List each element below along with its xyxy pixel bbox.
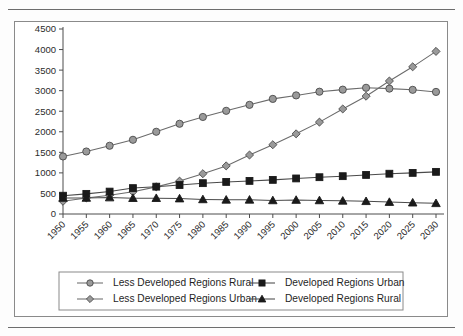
data-point [293,175,300,182]
y-tick-label: 4500 [35,23,56,34]
x-tick-label: 1980 [185,219,208,242]
data-point [269,176,276,183]
y-tick-label: 2000 [35,126,56,137]
data-point [409,169,416,176]
data-point [339,86,346,93]
legend-marker-square-icon [259,280,265,286]
series-0 [59,84,439,160]
data-point [83,148,90,155]
data-point [385,77,393,85]
data-point [386,170,393,177]
legend-label: Developed Regions Rural [285,293,401,304]
chart-series-group [59,47,440,206]
x-tick-label: 1970 [138,219,161,242]
y-tick-label: 1500 [35,147,56,158]
chart-legend: Less Developed Regions RuralDeveloped Re… [59,272,405,310]
data-point [292,130,300,138]
x-tick-label: 2020 [371,219,394,242]
series-3 [59,193,440,206]
data-point [386,85,393,92]
line-chart: 050010001500200025003000350040004500 195… [15,22,447,316]
data-point [269,141,277,149]
data-point [316,88,323,95]
x-tick-label: 1990 [231,219,254,242]
data-point [363,172,370,179]
legend-marker-circle-icon [87,280,93,286]
data-point [176,120,183,127]
page-root: 050010001500200025003000350040004500 195… [0,0,463,336]
y-tick-label: 4000 [35,44,56,55]
legend-label: Less Developed Regions Rural [113,277,253,288]
x-tick-label: 1965 [115,219,138,242]
y-axis: 050010001500200025003000350040004500 [35,23,63,219]
x-tick-label: 1950 [45,219,68,242]
data-point [199,113,206,120]
data-point [59,153,66,160]
x-tick-label: 1975 [161,219,184,242]
data-point [199,170,207,178]
data-point [339,105,347,113]
legend-label: Less Developed Regions Urban [113,293,257,304]
data-point [433,168,440,175]
chart-frame: 050010001500200025003000350040004500 195… [14,21,448,317]
data-point [409,63,417,71]
data-point [176,182,183,189]
data-point [339,173,346,180]
data-point [245,151,253,159]
data-point [432,88,439,95]
data-point [222,162,230,170]
data-point [432,47,440,55]
data-point [246,177,253,184]
y-tick-label: 0 [51,208,56,219]
x-tick-label: 1985 [208,219,231,242]
data-point [153,128,160,135]
data-point [315,118,323,126]
data-point [129,136,136,143]
data-point [153,183,160,190]
data-point [316,174,323,181]
data-point [409,86,416,93]
bottom-horizontal-rule [8,327,455,328]
x-tick-label: 2015 [348,219,371,242]
x-tick-label: 2010 [324,219,347,242]
data-point [130,185,137,192]
y-tick-label: 500 [40,188,56,199]
x-tick-label: 1995 [254,219,277,242]
x-tick-label: 2005 [301,219,324,242]
y-tick-label: 3000 [35,85,56,96]
y-tick-label: 1000 [35,167,56,178]
y-tick-label: 3500 [35,65,56,76]
y-tick-label: 2500 [35,106,56,117]
x-tick-label: 1955 [68,219,91,242]
data-point [199,180,206,187]
x-tick-label: 2025 [394,219,417,242]
data-point [223,179,230,186]
data-point [362,84,369,91]
data-point [246,101,253,108]
data-point [362,92,370,100]
x-tick-label: 1960 [91,219,114,242]
legend-label: Developed Regions Urban [285,277,405,288]
data-point [269,95,276,102]
top-horizontal-rule [8,9,455,10]
x-tick-label: 2030 [418,219,441,242]
data-point [106,142,113,149]
data-point [293,92,300,99]
data-point [223,107,230,114]
x-axis: 1950195519601965197019751980198519901995… [45,214,444,241]
x-tick-label: 2000 [278,219,301,242]
